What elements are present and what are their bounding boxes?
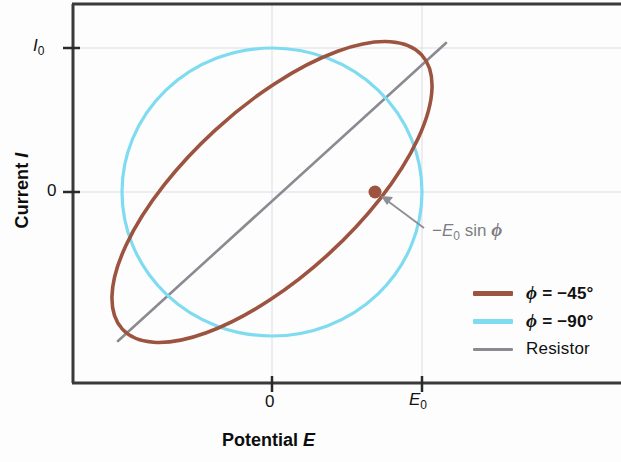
legend-label-phi-90: ϕ = −90° xyxy=(526,310,594,332)
legend-swatch-phi-90 xyxy=(473,319,513,324)
x-tick-label-zero: 0 xyxy=(265,392,274,412)
annotation-label-e0-sin-phi: −E0 sin ϕ xyxy=(432,219,502,243)
y-axis-title: Current I xyxy=(12,131,33,251)
figure-container: I0 0 0 E0 Current I Potential E −E0 sin … xyxy=(0,0,621,462)
legend-entry-resistor: Resistor xyxy=(473,338,590,360)
y-tick-label-i0: I0 xyxy=(33,36,44,58)
legend-entry-phi-45: ϕ = −45° xyxy=(473,282,594,304)
legend-label-resistor: Resistor xyxy=(526,339,590,359)
annotation-arrow xyxy=(381,196,424,228)
legend-entry-phi-90: ϕ = −90° xyxy=(473,310,594,332)
y-tick-label-zero: 0 xyxy=(47,181,56,201)
legend-label-phi-45: ϕ = −45° xyxy=(526,282,594,304)
x-tick-label-e0: E0 xyxy=(409,390,427,412)
legend-swatch-resistor xyxy=(473,348,513,351)
chart-canvas xyxy=(0,0,621,462)
legend-swatch-phi-45 xyxy=(473,291,513,296)
marker-e0-sin-phi xyxy=(369,186,382,199)
x-axis-title: Potential E xyxy=(222,430,315,451)
annotation-arrow-shaft xyxy=(385,199,424,228)
